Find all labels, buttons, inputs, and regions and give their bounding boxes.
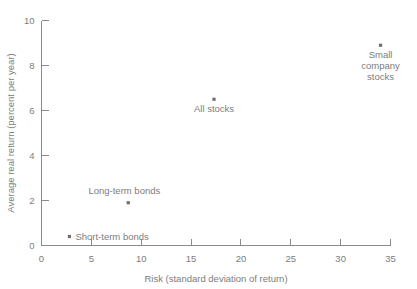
x-tick-label: 15	[186, 253, 197, 264]
x-tick-label: 5	[89, 253, 94, 264]
x-tick-label: 0	[39, 253, 44, 264]
y-axis-ticks: 0246810	[24, 15, 49, 251]
scatter-chart: 0246810 05101520253035 Short-term bondsL…	[0, 0, 417, 289]
x-tick-label: 25	[285, 253, 296, 264]
x-axis-ticks: 05101520253035	[39, 239, 396, 264]
data-point-label: Short-term bonds	[75, 231, 149, 242]
data-point-label: All stocks	[194, 103, 234, 114]
y-tick-label: 2	[29, 195, 34, 206]
data-points	[68, 44, 382, 238]
x-tick-label: 20	[236, 253, 247, 264]
y-tick-label: 0	[29, 240, 34, 251]
data-point-marker	[379, 44, 382, 47]
data-point-marker	[68, 235, 71, 238]
data-point-label: stocks	[367, 71, 394, 82]
y-tick-label: 4	[29, 150, 34, 161]
y-tick-label: 6	[29, 105, 34, 116]
x-tick-label: 30	[335, 253, 346, 264]
chart-canvas: 0246810 05101520253035 Short-term bondsL…	[0, 0, 417, 289]
x-axis-title: Risk (standard deviation of return)	[144, 273, 287, 284]
y-tick-label: 10	[24, 15, 35, 26]
x-tick-label: 35	[385, 253, 396, 264]
y-axis-title: Average real return (percent per year)	[5, 53, 16, 212]
data-point-marker	[127, 201, 130, 204]
y-tick-label: 8	[29, 60, 34, 71]
data-point-marker	[212, 98, 215, 101]
data-point-label: company	[361, 60, 400, 71]
data-point-labels: Short-term bondsLong-term bondsAll stock…	[75, 49, 400, 242]
data-point-label: Small	[369, 49, 393, 60]
x-tick-label: 10	[136, 253, 147, 264]
data-point-label: Long-term bonds	[88, 185, 160, 196]
